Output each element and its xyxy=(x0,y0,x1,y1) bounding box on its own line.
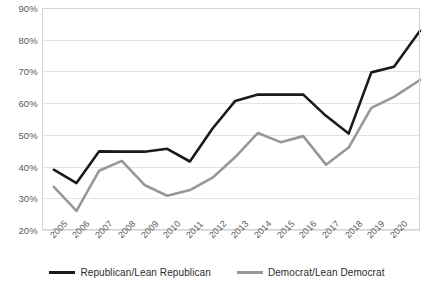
legend-swatch-icon xyxy=(49,271,75,274)
legend-swatch-icon xyxy=(237,271,263,274)
legend-item-democrat[interactable]: Democrat/Lean Democrat xyxy=(237,267,385,278)
y-tick-label: 20% xyxy=(2,225,38,236)
chart-legend: Republican/Lean RepublicanDemocrat/Lean … xyxy=(0,262,434,282)
plot-area xyxy=(42,8,420,230)
legend-label: Republican/Lean Republican xyxy=(80,267,210,278)
legend-label: Democrat/Lean Democrat xyxy=(268,267,385,278)
y-tick-label: 50% xyxy=(2,129,38,140)
y-tick-label: 90% xyxy=(2,3,38,14)
y-tick-label: 60% xyxy=(2,98,38,109)
line-chart: 20%30%40%50%60%70%80%90% 200520062007200… xyxy=(0,0,434,284)
y-tick-label: 70% xyxy=(2,66,38,77)
x-axis: 2005200620072008200920102011201220132014… xyxy=(42,231,420,261)
y-axis: 20%30%40%50%60%70%80%90% xyxy=(0,8,38,230)
y-tick-label: 40% xyxy=(2,161,38,172)
series-container xyxy=(42,8,420,230)
y-tick-label: 80% xyxy=(2,34,38,45)
series-line-republican xyxy=(54,31,420,183)
y-tick-label: 30% xyxy=(2,193,38,204)
legend-item-republican[interactable]: Republican/Lean Republican xyxy=(49,267,210,278)
